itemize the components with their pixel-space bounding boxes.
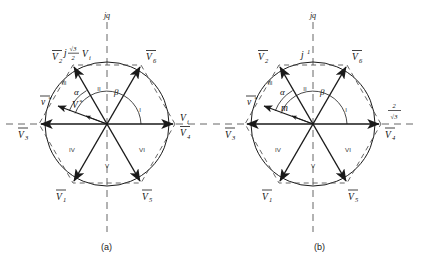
svg-text:6: 6 (359, 57, 363, 64)
axis-top-annotation-a: j √3 2 V i (62, 45, 91, 61)
svg-text:√3: √3 (391, 113, 399, 120)
label-V3-b: V 3 (225, 128, 236, 141)
svg-text:V: V (352, 52, 359, 62)
svg-text:V: V (262, 192, 269, 202)
svg-text:β: β (113, 87, 119, 97)
svg-text:5: 5 (149, 196, 153, 203)
svg-text:II: II (97, 85, 101, 92)
svg-text:α: α (74, 87, 79, 97)
svg-text:3: 3 (24, 134, 29, 141)
svg-text:4: 4 (392, 134, 396, 141)
svg-text:3: 3 (231, 134, 236, 141)
svg-text:V: V (52, 52, 59, 62)
label-reference-magnitude-a: V * (72, 98, 83, 110)
svg-text:I: I (345, 106, 347, 113)
svg-text:VI: VI (345, 146, 351, 153)
svg-text:III: III (267, 79, 272, 86)
svg-text:V: V (82, 49, 89, 59)
svg-text:i: i (187, 118, 189, 125)
svg-text:V: V (385, 130, 392, 140)
sector-V-a: V (105, 162, 110, 169)
sector-II-b: II (303, 85, 307, 92)
sector-V-b: V (311, 162, 316, 169)
svg-text:√3: √3 (70, 45, 78, 52)
svg-text:I: I (139, 106, 141, 113)
svg-text:V: V (56, 192, 63, 202)
sector-VI-b: VI (345, 146, 351, 153)
svg-text:IV: IV (275, 146, 282, 153)
svg-text:V: V (311, 162, 316, 169)
sector-IV-b: IV (275, 146, 282, 153)
svg-text:V: V (105, 162, 110, 169)
vector-V5-b (313, 124, 346, 181)
label-V4-a: V 4 (180, 127, 191, 140)
svg-text:1: 1 (63, 196, 66, 203)
vector-V1-b (280, 124, 313, 181)
sector-III-a: III (61, 79, 66, 86)
svg-text:v: v (247, 97, 252, 107)
svg-text:VI: VI (139, 146, 145, 153)
caption-panel-a: (a) (0, 242, 213, 252)
svg-text:II: II (303, 85, 307, 92)
svg-text:jq: jq (309, 11, 316, 20)
svg-text:v: v (41, 97, 46, 107)
vector-V5-a (107, 124, 140, 181)
svg-text:1: 1 (307, 48, 310, 55)
label-V4-b: V 4 (385, 128, 396, 141)
svg-text:5: 5 (355, 196, 359, 203)
label-beta-a: β (113, 87, 119, 97)
svg-text:V: V (180, 113, 187, 123)
label-V2-b: V 2 (258, 51, 269, 64)
svg-text:III: III (61, 79, 66, 86)
svg-text:IV: IV (69, 146, 76, 153)
svg-text:V: V (72, 100, 79, 110)
svg-text:α: α (280, 87, 285, 97)
svg-text:V: V (258, 52, 265, 62)
svg-text:j: j (299, 50, 304, 60)
label-V2-a: V 2 (52, 51, 63, 64)
axis-label-jq-a: jq (103, 11, 110, 20)
svg-text:1: 1 (269, 196, 272, 203)
figure-space-vector-hexagons: jq j √3 2 V i V 2 V 6 (0, 0, 426, 258)
label-V3-a: V 3 (18, 128, 29, 141)
vector-V1-a (74, 124, 107, 181)
sector-IV-a: IV (69, 146, 76, 153)
svg-text:4: 4 (187, 133, 191, 140)
panel-b: jq j 1 2 √3 V 2 V 6 (213, 0, 426, 258)
svg-text:V: V (225, 130, 232, 140)
svg-text:β: β (319, 87, 325, 97)
angle-beta-arc-b (281, 91, 347, 124)
label-alpha-a: α (74, 87, 79, 97)
svg-text:V: V (348, 192, 355, 202)
label-V5-a: V 5 (142, 190, 153, 203)
panel-a: jq j √3 2 V i V 2 V 6 (0, 0, 213, 258)
angle-beta-arc-a (75, 91, 141, 124)
svg-text:2: 2 (71, 54, 75, 61)
sector-III-b: III (267, 79, 272, 86)
caption-panel-b: (b) (213, 242, 426, 252)
svg-text:2: 2 (265, 57, 269, 64)
axis-right-fraction-b: 2 √3 (388, 102, 401, 120)
svg-text:V: V (142, 192, 149, 202)
label-V6-b: V 6 (352, 51, 363, 64)
label-beta-b: β (319, 87, 325, 97)
svg-text:V: V (180, 128, 187, 138)
axis-label-jq-b: jq (309, 11, 316, 20)
sector-VI-a: VI (139, 146, 145, 153)
svg-text:V: V (146, 52, 153, 62)
label-V1-b: V 1 (262, 190, 272, 203)
svg-text:m: m (281, 103, 288, 113)
label-Vi-a: V i (180, 113, 189, 125)
sector-I-a: I (139, 106, 141, 113)
svg-text:j: j (62, 48, 67, 58)
svg-text:2: 2 (59, 57, 63, 64)
label-V1-a: V 1 (56, 190, 66, 203)
svg-text:V: V (18, 130, 25, 140)
svg-text:2: 2 (392, 102, 396, 109)
svg-text:6: 6 (153, 57, 157, 64)
svg-text:jq: jq (103, 11, 110, 20)
label-alpha-b: α (280, 87, 285, 97)
label-reference-magnitude-b: m (281, 103, 288, 113)
axis-top-annotation-b: j 1 (299, 48, 310, 61)
sector-I-b: I (345, 106, 347, 113)
